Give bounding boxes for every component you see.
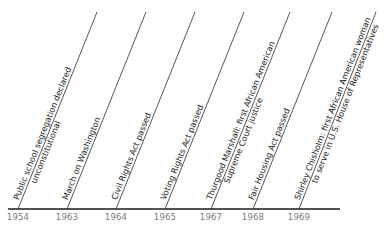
year-label: 1963 <box>56 212 78 222</box>
year-label: 1969 <box>288 212 310 222</box>
year-label: 1954 <box>7 212 29 222</box>
leader-line <box>116 12 195 209</box>
year-label: 1964 <box>105 212 127 222</box>
year-label: 1967 <box>200 212 222 222</box>
year-label: 1965 <box>154 212 176 222</box>
timeline-diagram: Public school segregation declared uncon… <box>0 0 387 225</box>
leader-line <box>67 12 146 209</box>
year-label: 1968 <box>242 212 264 222</box>
